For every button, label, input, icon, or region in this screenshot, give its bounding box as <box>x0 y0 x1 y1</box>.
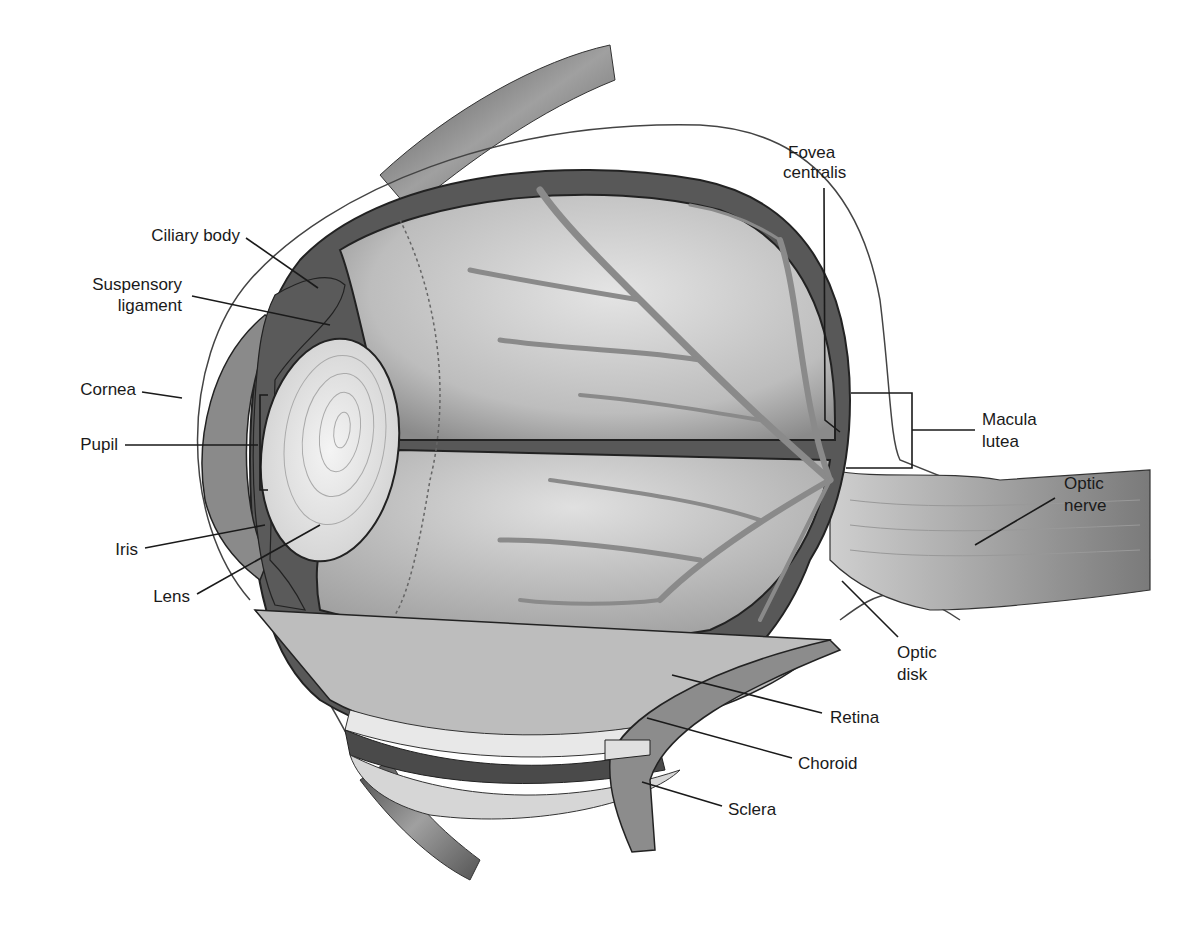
label-optic-disk-2: disk <box>897 665 927 685</box>
eye-diagram: Ciliary body Suspensory ligament Cornea … <box>0 0 1182 928</box>
label-macula-2: lutea <box>982 432 1019 452</box>
label-suspensory-ligament-2: ligament <box>60 296 182 316</box>
label-cornea: Cornea <box>60 380 136 400</box>
label-iris: Iris <box>60 540 138 560</box>
label-suspensory-ligament-1: Suspensory <box>60 275 182 295</box>
label-retina: Retina <box>830 708 879 728</box>
label-pupil: Pupil <box>60 435 118 455</box>
upper-chamber <box>340 195 835 440</box>
label-fovea-2: centralis <box>783 163 846 183</box>
eye-illustration <box>0 0 1182 928</box>
label-ciliary-body: Ciliary body <box>112 226 240 246</box>
label-macula-1: Macula <box>982 410 1037 430</box>
label-fovea-1: Fovea <box>788 143 835 163</box>
label-optic-nerve-2: nerve <box>1064 496 1107 516</box>
label-optic-disk-1: Optic <box>897 643 937 663</box>
label-optic-nerve-1: Optic <box>1064 474 1104 494</box>
label-sclera: Sclera <box>728 800 776 820</box>
label-choroid: Choroid <box>798 754 858 774</box>
label-lens: Lens <box>60 587 190 607</box>
